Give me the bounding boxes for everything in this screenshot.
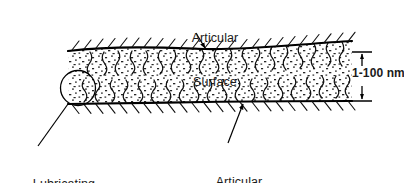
label-thickness-dimension: 1-100 nm xyxy=(352,66,404,81)
label-bottom-articular-line1: Articular xyxy=(184,175,294,183)
label-top-articular-line1: Articular xyxy=(155,31,275,46)
label-lubricating-line1: Lubricating xyxy=(3,177,125,183)
label-lubricating-glycoprotein: Lubricating Glycoprotein xyxy=(3,148,125,183)
lubricating-leader-line xyxy=(38,104,68,146)
label-bottom-articular-surface: Articular Surface xyxy=(184,146,294,183)
label-top-articular-line2: Surface xyxy=(155,75,275,90)
label-top-articular-surface: Articular Surface xyxy=(155,2,275,118)
figure-container: Articular Surface Articular Surface Lubr… xyxy=(0,0,404,183)
